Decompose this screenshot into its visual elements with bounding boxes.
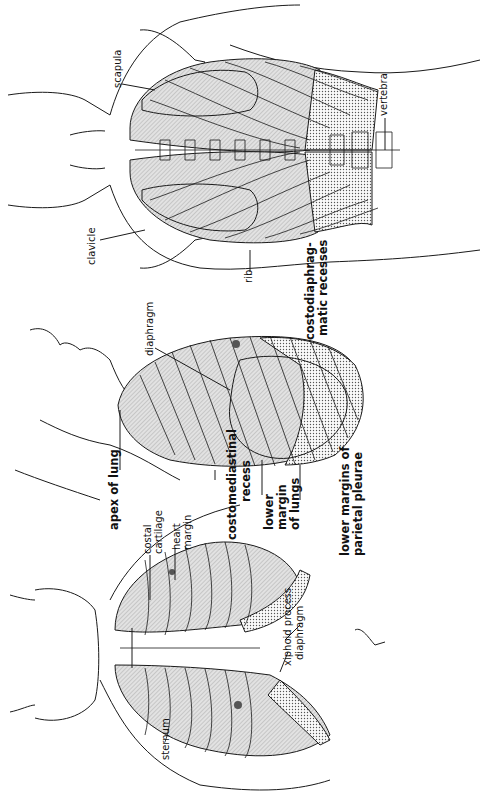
label-xiphoid-process: xiphoid process — [282, 588, 294, 666]
label-heart-margin-line1: heart — [171, 523, 183, 550]
label-costal-cartilage-line1: costal — [142, 524, 154, 554]
label-diaphragm-anterior: diaphragm — [294, 606, 306, 660]
lateral-view — [15, 329, 363, 500]
label-heart-margin-line2: margin — [182, 515, 194, 550]
label-scapula: scapula — [112, 50, 124, 88]
label-sternum: sternum — [160, 718, 172, 760]
label-lower-margin-line3: of lungs — [289, 478, 302, 530]
label-apex-of-lung: apex of lung — [108, 449, 121, 530]
label-diaphragm-lateral: diaphragm — [144, 302, 156, 356]
anterior-view — [10, 505, 385, 790]
label-vertebra: vertebra — [378, 73, 390, 116]
label-costal-cartilage-line2: cartilage — [153, 510, 165, 554]
posterior-view — [8, 5, 480, 272]
label-costomediastinal-line1: costomediastinal — [226, 429, 239, 540]
label-rib: rib — [243, 270, 255, 283]
lung-pleura-diagram: scapula vertebra clavicle rib costodiaph… — [0, 0, 485, 794]
label-parietal-pleurae-line2: parietal pleurae — [352, 452, 365, 556]
label-costodiaphragmatic-line2: matic recesses — [317, 240, 330, 336]
label-clavicle: clavicle — [86, 227, 98, 265]
label-costomediastinal-line2: recess — [240, 460, 253, 502]
diagram-illustration — [0, 0, 485, 794]
